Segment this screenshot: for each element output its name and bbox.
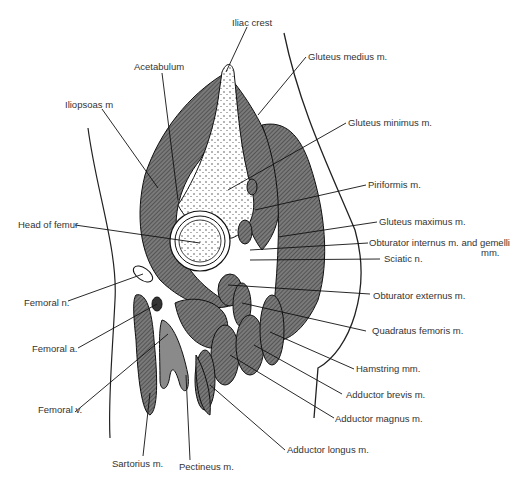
- label-head-of-femur: Head of femur: [18, 219, 78, 230]
- label-adductor-magnus: Adductor magnus m.: [335, 413, 423, 424]
- label-gluteus-medius: Gluteus medius m.: [308, 51, 387, 62]
- label-piriformis: Piriformis m.: [368, 179, 421, 190]
- label-femoral-a: Femoral a.: [32, 343, 77, 354]
- label-gluteus-maximus: Gluteus maximus m.: [379, 216, 466, 227]
- label-sciatic: Sciatic n.: [384, 253, 423, 264]
- label-adductor-brevis: Adductor brevis m.: [346, 389, 425, 400]
- label-adductor-longus: Adductor longus m.: [287, 444, 369, 455]
- label-sartorius: Sartorius m.: [112, 458, 163, 469]
- label-gluteus-minimus: Gluteus minimus m.: [348, 117, 432, 128]
- anatomy-diagram: Iliac crest Acetabulum Iliopsoas m Glute…: [0, 0, 513, 482]
- label-iliopsoas: Iliopsoas m: [65, 99, 113, 110]
- label-acetabulum: Acetabulum: [134, 61, 184, 72]
- label-femoral-v: Femoral v.: [38, 404, 82, 415]
- label-iliac-crest: Iliac crest: [232, 17, 272, 28]
- label-obturator-internus-mm: mm.: [481, 247, 499, 258]
- label-femoral-n: Femoral n.: [24, 297, 69, 308]
- label-pectineus: Pectineus m.: [179, 461, 234, 472]
- label-quadratus-femoris: Quadratus femoris m.: [372, 325, 463, 336]
- label-hamstring: Hamstring mm.: [356, 363, 420, 374]
- label-obturator-externus: Obturator externus m.: [373, 290, 465, 301]
